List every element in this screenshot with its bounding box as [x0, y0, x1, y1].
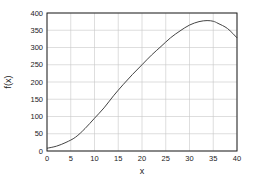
- x-axis-label: x: [140, 166, 145, 176]
- y-axis-label: f(x): [3, 76, 13, 89]
- x-tick-label: 40: [233, 154, 241, 163]
- x-axis-ticks: 0510152025303540: [45, 154, 241, 163]
- y-tick-label: 50: [35, 129, 43, 138]
- y-tick-label: 300: [30, 43, 43, 52]
- y-tick-label: 400: [30, 9, 43, 18]
- y-axis-ticks: 050100150200250300350400: [30, 9, 43, 156]
- grid-lines: [47, 13, 237, 151]
- y-tick-label: 250: [30, 60, 43, 69]
- x-tick-label: 10: [90, 154, 98, 163]
- x-tick-label: 20: [138, 154, 146, 163]
- y-tick-label: 0: [39, 147, 43, 156]
- y-tick-label: 150: [30, 95, 43, 104]
- y-tick-label: 200: [30, 78, 43, 87]
- x-tick-label: 30: [185, 154, 193, 163]
- y-tick-label: 100: [30, 112, 43, 121]
- y-tick-label: 350: [30, 26, 43, 35]
- line-chart: 050100150200250300350400 051015202530354…: [0, 0, 254, 179]
- x-tick-label: 0: [45, 154, 49, 163]
- x-tick-label: 5: [69, 154, 73, 163]
- x-tick-label: 35: [209, 154, 217, 163]
- x-tick-label: 15: [114, 154, 122, 163]
- x-tick-label: 25: [162, 154, 170, 163]
